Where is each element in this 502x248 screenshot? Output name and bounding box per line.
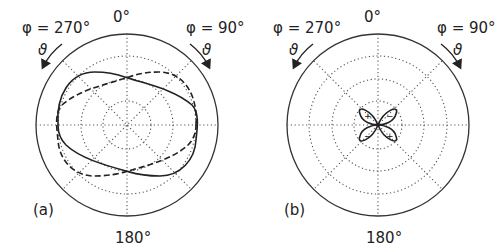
panel-label-a: (a): [33, 201, 54, 219]
label-180-deg: 180°: [115, 229, 151, 247]
label-phi-270: φ = 270°: [273, 19, 341, 37]
label-phi-270: φ = 270°: [22, 19, 90, 37]
polar-grid: [36, 34, 218, 216]
label-phi-90: φ = 90°: [186, 19, 245, 37]
label-phi-90: φ = 90°: [437, 19, 496, 37]
theta-right: ϑ: [202, 41, 211, 59]
theta-left: ϑ: [289, 41, 298, 59]
theta-left: ϑ: [38, 41, 47, 59]
lobe-sign-lower-right: +: [386, 131, 394, 141]
label-180-deg: 180°: [366, 229, 402, 247]
polar-diagrams: 0° 180° φ = 270° φ = 90° ϑ ϑ (a) + −: [0, 0, 502, 248]
lobe-sign-upper-right: −: [386, 111, 394, 121]
theta-right: ϑ: [453, 41, 462, 59]
panel-label-b: (b): [284, 201, 305, 219]
solid-pattern-curve: [58, 72, 198, 176]
panel-b: + − − + 0° 180° φ = 270° φ = 90° ϑ ϑ (b): [273, 8, 496, 247]
dashed-pattern-curve: [57, 72, 197, 176]
lobe-sign-lower-left: −: [364, 131, 372, 141]
label-0-deg: 0°: [113, 8, 130, 26]
panel-a: 0° 180° φ = 270° φ = 90° ϑ ϑ (a): [22, 8, 245, 247]
lobe-sign-upper-left: +: [364, 111, 372, 121]
label-0-deg: 0°: [364, 8, 381, 26]
